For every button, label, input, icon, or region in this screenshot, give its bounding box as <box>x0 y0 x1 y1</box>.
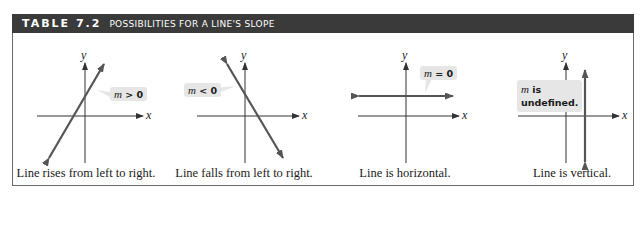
panel-2-y-label: y <box>241 48 246 63</box>
panel-4-graph <box>518 63 619 163</box>
panel-1-x-label: x <box>146 108 151 123</box>
panel-2-x-label: x <box>302 108 307 123</box>
callout-pointer <box>97 90 110 97</box>
panel-1-caption: Line rises from left to right. <box>17 166 156 181</box>
panel-4-slope-callout: m is undefined. <box>517 80 582 112</box>
panel-1-slope-callout: m > 0 <box>110 87 147 101</box>
panel-2-caption: Line falls from left to right. <box>175 166 312 181</box>
callout-pointer <box>425 79 432 93</box>
panel-1-y-label: y <box>81 48 86 63</box>
panel-4-x-label: x <box>622 108 627 123</box>
panel-4-y-label: y <box>562 48 567 63</box>
falling-line <box>227 64 283 158</box>
panel-4-caption: Line is vertical. <box>533 166 611 181</box>
panel-1-graph <box>37 63 143 163</box>
panel-3-slope-callout: m = 0 <box>420 66 457 80</box>
rising-line <box>49 64 104 158</box>
panel-3-caption: Line is horizontal. <box>359 166 450 181</box>
panel-3-y-label: y <box>402 48 407 63</box>
panel-3-x-label: x <box>462 108 467 123</box>
panel-2-graph <box>197 63 299 163</box>
panel-2-slope-callout: m < 0 <box>184 83 221 97</box>
